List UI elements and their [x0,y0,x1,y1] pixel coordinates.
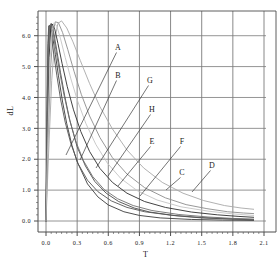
x-tick-label: 0.9 [135,239,144,246]
series-label-E: E [150,137,155,146]
series-label-G: G [147,76,153,85]
x-tick-label: 1.2 [166,239,175,246]
chart-figure: 0.00.30.60.91.21.51.82.10.01.02.03.04.05… [0,0,278,269]
series-leader-line-A [66,53,117,156]
x-tick-label: 0.0 [42,239,51,246]
x-tick-label: 1.5 [197,239,206,246]
x-axis-label: T [143,250,148,259]
series-label-C: C [179,168,184,177]
x-tick-label: 1.8 [228,239,237,246]
chart-plot-area: 0.00.30.60.91.21.51.82.10.01.02.03.04.05… [0,0,278,269]
series-label-F: F [180,137,185,146]
series-label-A: A [115,43,121,52]
x-tick-label: 0.6 [104,239,113,246]
x-tick-label: 0.3 [73,239,82,246]
y-tick-label: 3.0 [22,125,31,132]
series-leader-line-D [192,171,211,193]
y-axis-label: dL [6,104,15,118]
series-leader-line-H [108,115,151,177]
x-tick-label: 2.1 [260,239,269,246]
y-tick-label: 2.0 [22,155,31,162]
y-tick-label: 1.0 [22,186,31,193]
series-label-H: H [149,105,155,114]
y-tick-label: 4.0 [22,94,31,101]
series-label-D: D [209,161,215,170]
series-label-B: B [115,71,120,80]
y-tick-label: 5.0 [22,63,31,70]
grid-lines [38,11,266,232]
y-tick-label: 0.0 [22,217,31,224]
series-callouts: ABCDEFGH [66,43,215,196]
y-tick-label: 6.0 [22,32,31,39]
